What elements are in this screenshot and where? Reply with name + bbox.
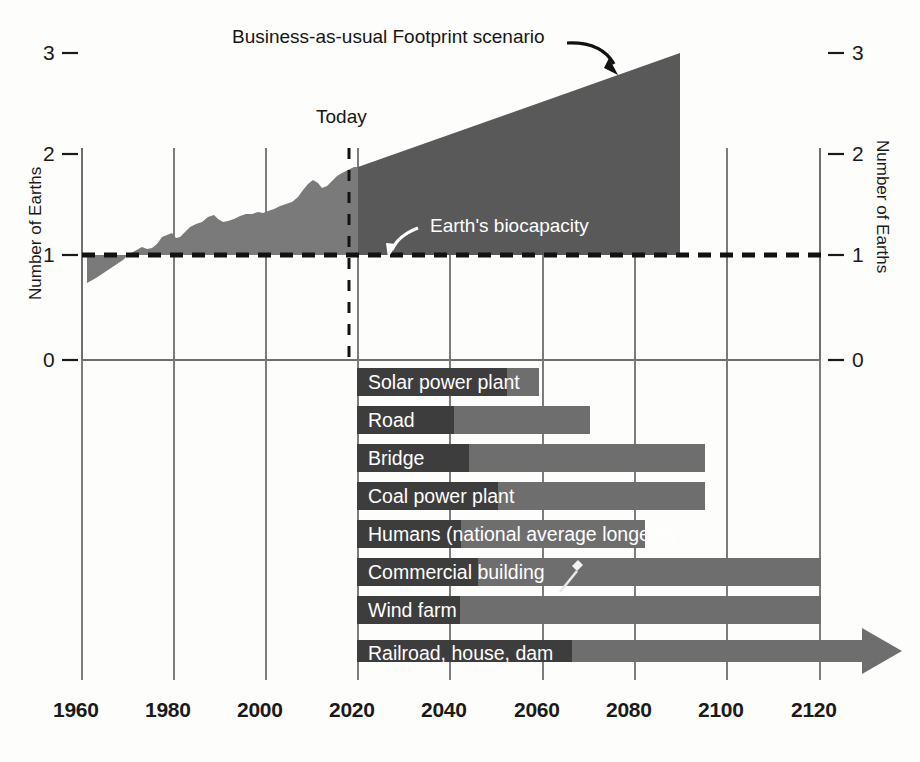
y-ticks-right <box>828 53 844 360</box>
bar-label-railroad-house-dam: Railroad, house, dam <box>362 644 559 664</box>
x-tick-2020: 2020 <box>329 698 375 722</box>
bar-label-humans: Humans (national average longevity) <box>362 525 692 545</box>
bar-label-coal-power-plant: Coal power plant <box>362 487 520 507</box>
x-tick-1980: 1980 <box>145 698 191 722</box>
bar-label-wind-farm: Wind farm <box>362 601 463 621</box>
y-tick-left-0: 0 <box>43 348 55 372</box>
x-tick-2040: 2040 <box>421 698 467 722</box>
bar-label-road: Road <box>362 411 421 431</box>
x-tick-2100: 2100 <box>698 698 744 722</box>
biocapacity-annotation-label: Earth's biocapacity <box>430 215 589 237</box>
x-tick-1960: 1960 <box>53 698 99 722</box>
bar-label-bridge: Bridge <box>362 449 430 469</box>
y-tick-right-0: 0 <box>852 348 864 372</box>
chart-figure: 3 2 1 0 3 2 1 0 Number of Earths Number … <box>0 0 920 762</box>
y-tick-right-3: 3 <box>852 41 864 65</box>
area-series-group <box>87 53 680 283</box>
scenario-annotation-label: Business-as-usual Footprint scenario <box>232 26 545 48</box>
historical-footprint-area <box>87 167 358 283</box>
y-axis-title-left: Number of Earths <box>26 167 46 300</box>
y-tick-right-1: 1 <box>852 243 864 267</box>
bar-label-solar-power-plant: Solar power plant <box>362 373 526 393</box>
y-tick-right-2: 2 <box>852 142 864 166</box>
x-tick-2080: 2080 <box>606 698 652 722</box>
x-tick-2120: 2120 <box>791 698 837 722</box>
y-tick-left-3: 3 <box>43 41 55 65</box>
y-axis-title-right: Number of Earths <box>872 140 892 273</box>
x-tick-2000: 2000 <box>237 698 283 722</box>
today-annotation-label: Today <box>316 106 367 128</box>
bar-label-commercial-building: Commercial building <box>362 563 551 583</box>
y-ticks-left <box>62 53 78 360</box>
x-tick-2060: 2060 <box>514 698 560 722</box>
y-tick-left-2: 2 <box>43 142 55 166</box>
scenario-arrow-icon <box>567 43 618 75</box>
